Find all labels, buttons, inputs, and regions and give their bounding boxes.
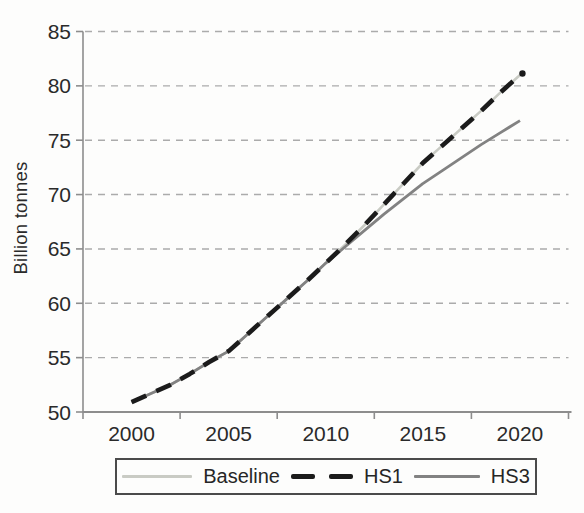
y-tick-label: 55 (48, 346, 71, 369)
legend-label-baseline: Baseline (203, 466, 280, 488)
figure: 505560657075808520002005201020152020 Bil… (0, 0, 584, 513)
line-chart: 505560657075808520002005201020152020 (0, 0, 584, 513)
x-tick-label: 2015 (399, 422, 446, 445)
series-line-hs3 (132, 121, 520, 403)
y-tick-label: 85 (48, 20, 71, 43)
y-tick-label: 80 (48, 74, 71, 97)
legend: Baseline HS1 HS3 (115, 458, 537, 495)
legend-hs1-dash-sample (291, 474, 353, 479)
y-tick-label: 75 (48, 129, 71, 152)
x-tick-label: 2005 (205, 422, 252, 445)
y-tick-label: 70 (48, 183, 71, 206)
x-tick-label: 2010 (302, 422, 349, 445)
y-tick-label: 65 (48, 237, 71, 260)
series-line-hs1 (132, 75, 520, 402)
y-axis-title: Billion tonnes (10, 162, 32, 275)
legend-label-hs3: HS3 (491, 466, 530, 488)
series-end-marker-hs1 (519, 70, 525, 76)
legend-baseline-line-sample (122, 475, 192, 478)
y-tick-label: 50 (48, 401, 71, 424)
x-tick-label: 2020 (497, 422, 544, 445)
x-tick-label: 2000 (108, 422, 155, 445)
series-line-baseline (132, 75, 520, 402)
y-tick-label: 60 (48, 292, 71, 315)
legend-label-hs1: HS1 (364, 466, 403, 488)
legend-hs3-line-sample (414, 475, 480, 478)
